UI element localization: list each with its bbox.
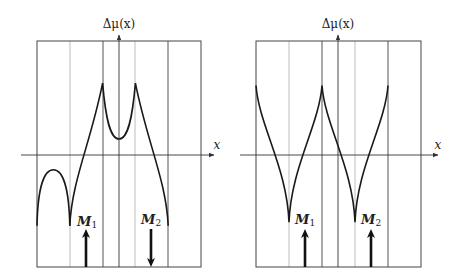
panel-frame	[256, 41, 421, 267]
diagram-canvas: Δμ(x) x M1 M2 Δμ(x) x M1 M2	[0, 0, 461, 280]
y-axis-label: Δμ(x)	[322, 17, 355, 31]
x-axis-label: x	[214, 138, 221, 152]
left-panel: Δμ(x) x M1 M2	[21, 17, 221, 267]
potential-curve-arch	[37, 170, 70, 226]
magnet-label-m1: M1	[76, 214, 97, 230]
magnet-label-m1: M1	[294, 212, 315, 228]
y-axis-label: Δμ(x)	[103, 17, 136, 31]
x-axis-label: x	[435, 138, 442, 152]
magnet-label-m2: M2	[140, 212, 161, 228]
right-panel: Δμ(x) x M1 M2	[240, 17, 442, 267]
magnet-label-m2: M2	[360, 212, 381, 228]
